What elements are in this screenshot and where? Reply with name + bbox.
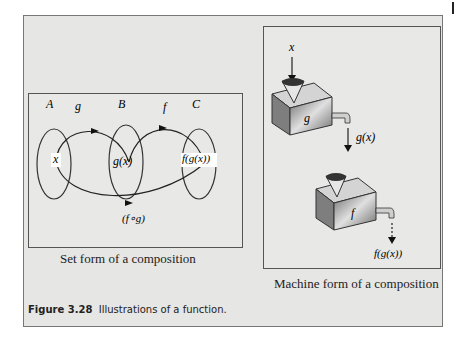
composite-arrowhead-icon xyxy=(125,200,133,206)
machine-f-label: f xyxy=(351,206,354,221)
figure-caption: Figure 3.28 Illustrations of a function. xyxy=(28,304,227,315)
input-x-label: x xyxy=(289,40,294,55)
g-arrowhead-icon xyxy=(91,128,99,134)
g-map-label: g xyxy=(75,99,81,114)
set-form-caption: Set form of a composition xyxy=(60,251,196,267)
element-x-label: x xyxy=(53,152,58,167)
output-fgx-label: f(g(x)) xyxy=(374,247,402,259)
figure-label: Figure 3.28 xyxy=(28,304,92,315)
set-c-label: C xyxy=(192,97,200,112)
intermediate-gx-label: g(x) xyxy=(356,130,375,145)
set-form-diagram: A B C g f x g(x) f(g(x)) (f∘g) xyxy=(28,93,243,248)
machine-g-spout xyxy=(332,113,350,123)
machine-form-caption: Machine form of a composition xyxy=(274,276,439,292)
f-map-label: f xyxy=(163,100,166,115)
figure-caption-text: Illustrations of a function. xyxy=(99,304,227,315)
set-b-label: B xyxy=(118,97,125,112)
element-fgx-label: f(g(x)) xyxy=(182,152,210,164)
set-a-label: A xyxy=(46,97,53,112)
page-edge-mark xyxy=(452,2,454,14)
funnel-f-opening xyxy=(326,173,346,181)
machine-f-spout xyxy=(376,208,394,218)
figure-box: A B C g f x g(x) f(g(x)) (f∘g) Set form … xyxy=(23,15,443,327)
intermediate-arrowhead-icon xyxy=(344,145,352,152)
element-gx-label: g(x) xyxy=(113,154,132,169)
set-diagram-svg xyxy=(29,94,244,249)
composite-map-label: (f∘g) xyxy=(122,212,145,225)
machine-diagram-svg xyxy=(264,27,442,270)
machine-form-diagram: x g g(x) f f(g(x)) xyxy=(263,26,441,269)
output-arrowhead-icon xyxy=(388,237,396,244)
machine-g-label: g xyxy=(304,111,310,126)
funnel-g-opening xyxy=(282,78,304,86)
